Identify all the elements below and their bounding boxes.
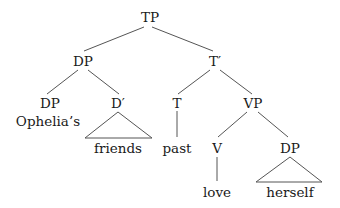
node-dp-subject: DP (73, 53, 93, 69)
node-t-bar: T′ (209, 53, 221, 69)
syntax-tree-diagram: TP DP T′ DP Ophelia’s D′ friends T past … (0, 0, 340, 208)
node-tp: TP (141, 9, 159, 25)
word-love: love (203, 184, 231, 200)
node-dp-possessor: DP (40, 95, 60, 111)
word-friends: friends (94, 140, 142, 156)
edge-dp-dbar (88, 70, 119, 94)
edge-tp-dp (84, 27, 144, 51)
triangle-dp-object (256, 157, 322, 182)
node-d-bar: D′ (111, 95, 125, 111)
edge-dp-dp (47, 70, 78, 94)
edge-tbar-t (178, 70, 210, 94)
node-t: T (172, 95, 181, 111)
word-herself: herself (266, 184, 314, 200)
edge-vp-v (218, 112, 247, 137)
word-past: past (162, 140, 192, 156)
triangle-dbar (85, 112, 152, 138)
node-v: V (211, 140, 222, 156)
node-dp-object: DP (280, 140, 300, 156)
edge-tbar-vp (220, 70, 252, 94)
word-ophelias: Ophelia’s (16, 113, 80, 129)
edge-tp-tbar (152, 27, 213, 51)
node-vp: VP (243, 95, 263, 111)
edge-vp-dp (258, 112, 288, 137)
